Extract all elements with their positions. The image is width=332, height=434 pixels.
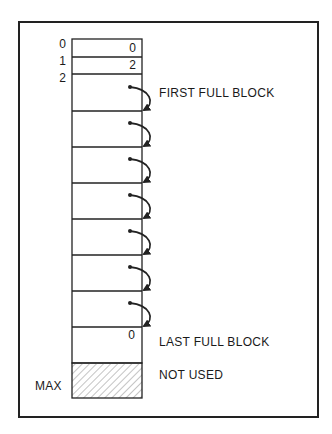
index-label-0: 0 (52, 38, 66, 50)
link-arrow-icon (128, 193, 150, 218)
index-label-2: 2 (52, 72, 66, 84)
link-arrow-icon (128, 301, 150, 326)
link-arrow-icon (128, 121, 150, 146)
cell-value-0: 0 (116, 42, 136, 54)
link-arrow-icon (128, 85, 150, 110)
first-full-block-label: FIRST FULL BLOCK (159, 87, 275, 99)
max-label: MAX (35, 380, 62, 392)
cell-value-1: 2 (116, 59, 136, 71)
link-arrow-icon (128, 157, 150, 182)
unused-block-hatched (72, 363, 142, 398)
last-block-value: 0 (115, 329, 135, 341)
link-arrow-icon (128, 229, 150, 254)
link-arrows (128, 85, 150, 326)
link-arrow-icon (128, 265, 150, 290)
index-label-1: 1 (52, 55, 66, 67)
last-full-block-label: LAST FULL BLOCK (159, 336, 270, 348)
not-used-label: NOT USED (159, 369, 223, 381)
